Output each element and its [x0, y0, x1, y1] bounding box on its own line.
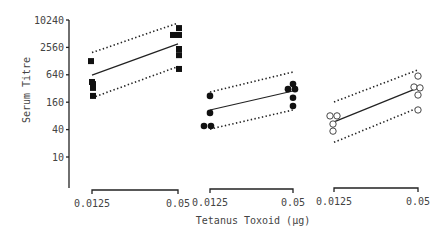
serum-titre-chart: 1040160640256010240 Serum Titre 0.01250.… [0, 0, 445, 240]
data-point-filled-circle [201, 123, 208, 130]
y-tick-label: 40 [52, 124, 64, 135]
regression-line [210, 91, 293, 110]
panels: 0.01250.050.01250.050.01250.05 [74, 23, 430, 209]
data-point-filled-circle [208, 123, 215, 130]
data-point-open-circle [330, 128, 336, 134]
panel-group-1: 0.01250.05 [74, 23, 190, 209]
y-tick-label: 2560 [40, 42, 64, 53]
data-point-square [176, 32, 182, 38]
x-tick-label: 0.0125 [74, 198, 110, 209]
y-tick-label: 10240 [34, 15, 64, 26]
data-point-square [88, 58, 94, 64]
upper-confidence-line [334, 70, 418, 102]
x-axis-title: Tetanus Toxoid (µg) [196, 215, 310, 226]
data-point-square [176, 46, 182, 52]
lower-confidence-line [210, 110, 293, 129]
data-point-filled-circle [207, 93, 214, 100]
data-point-square [90, 85, 96, 91]
y-tick-label: 10 [52, 152, 64, 163]
data-point-square [176, 25, 182, 31]
x-tick-label: 0.0125 [192, 197, 228, 208]
upper-confidence-line [210, 72, 293, 92]
panel-group-3: 0.01250.05 [316, 70, 430, 207]
data-point-filled-circle [285, 86, 292, 93]
data-point-open-circle [417, 85, 423, 91]
data-point-square [176, 66, 182, 72]
regression-line [92, 44, 178, 75]
x-tick-label: 0.05 [166, 198, 190, 209]
data-point-filled-circle [290, 94, 297, 101]
data-point-open-circle [415, 92, 421, 98]
data-point-open-circle [327, 113, 333, 119]
data-point-open-circle [334, 113, 340, 119]
lower-confidence-line [334, 108, 418, 142]
x-tick-label: 0.05 [281, 197, 305, 208]
y-axis-title: Serum Titre [21, 57, 32, 123]
x-tick-label: 0.0125 [316, 196, 352, 207]
x-tick-label: 0.05 [406, 196, 430, 207]
x-axis-bracket [334, 188, 418, 192]
regression-line [334, 88, 418, 122]
data-point-filled-circle [207, 110, 214, 117]
data-point-square [170, 32, 176, 38]
data-point-open-circle [415, 73, 421, 79]
y-axis: 1040160640256010240 [34, 15, 69, 189]
data-point-square [90, 93, 96, 99]
lower-confidence-line [92, 67, 178, 98]
data-point-square [176, 52, 182, 58]
data-point-filled-circle [292, 86, 299, 93]
x-axis-bracket [210, 189, 293, 193]
data-point-open-circle [411, 84, 417, 90]
data-point-open-circle [415, 107, 421, 113]
x-axis-bracket [92, 190, 178, 194]
data-point-open-circle [330, 121, 336, 127]
panel-group-2: 0.01250.05 [192, 72, 305, 208]
data-point-filled-circle [290, 103, 297, 110]
y-tick-label: 640 [46, 69, 64, 80]
y-tick-label: 160 [46, 97, 64, 108]
